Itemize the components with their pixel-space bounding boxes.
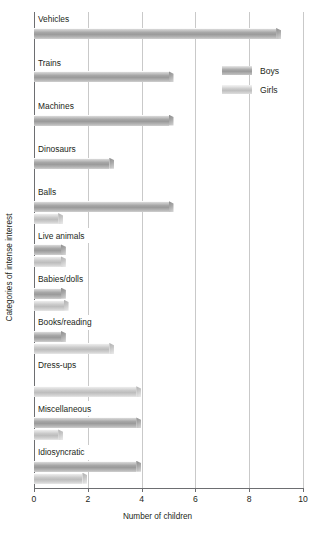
legend-item-girls: Girls <box>222 83 279 96</box>
x-tick <box>88 488 89 492</box>
x-tick <box>142 488 143 492</box>
y-axis-title-text: Categories of intense interest <box>5 214 14 322</box>
x-tick <box>195 488 196 492</box>
category-label: Live animals <box>35 228 89 243</box>
x-axis-title: Number of children <box>0 512 315 521</box>
x-axis-title-text: Number of children <box>123 512 192 521</box>
x-axis-line <box>34 488 304 489</box>
x-tick <box>303 488 304 492</box>
bar-boys <box>34 28 276 39</box>
x-tick-label: 4 <box>130 494 154 504</box>
category-group: Babies/dolls <box>34 272 303 315</box>
chart-legend: Boys Girls <box>222 64 279 102</box>
category-group: Dress-ups <box>34 358 303 401</box>
bar-girls <box>34 429 58 440</box>
bar-boys <box>34 417 136 428</box>
x-tick-label: 2 <box>76 494 100 504</box>
y-axis-title: Categories of intense interest <box>0 0 18 535</box>
bar-boys <box>34 115 169 126</box>
category-label: Babies/dolls <box>35 272 87 287</box>
category-group: Vehicles <box>34 12 303 55</box>
bar-chart-figure: Categories of intense interest VehiclesT… <box>0 0 315 535</box>
category-group: Live animals <box>34 228 303 271</box>
x-tick-label: 6 <box>183 494 207 504</box>
category-group: Miscellaneous <box>34 401 303 444</box>
category-label: Dress-ups <box>35 358 80 373</box>
x-tick <box>249 488 250 492</box>
x-tick-label: 10 <box>291 494 315 504</box>
bar-boys <box>34 331 61 342</box>
x-tick-label: 0 <box>22 494 46 504</box>
bar-girls <box>34 256 61 267</box>
bar-boys <box>34 201 169 212</box>
bar-boys <box>34 461 136 472</box>
category-label: Trains <box>35 55 65 70</box>
bar-boys <box>34 71 169 82</box>
bar-girls <box>34 386 136 397</box>
legend-label-girls: Girls <box>260 85 278 95</box>
legend-item-boys: Boys <box>222 64 279 77</box>
category-group: Balls <box>34 185 303 228</box>
x-tick-label: 8 <box>237 494 261 504</box>
category-label: Books/reading <box>35 315 96 330</box>
bar-girls <box>34 300 64 311</box>
gridline-10 <box>303 12 304 488</box>
bar-boys <box>34 158 109 169</box>
x-tick <box>34 488 35 492</box>
bar-boys <box>34 244 61 255</box>
category-group: Idiosyncratic <box>34 445 303 488</box>
category-label: Miscellaneous <box>35 401 95 416</box>
bar-girls <box>34 473 82 484</box>
bar-girls <box>34 213 58 224</box>
category-label: Balls <box>35 185 60 200</box>
bar-boys <box>34 288 61 299</box>
category-label: Vehicles <box>35 12 73 27</box>
legend-label-boys: Boys <box>260 66 279 76</box>
category-group: Books/reading <box>34 315 303 358</box>
category-group: Machines <box>34 99 303 142</box>
category-group: Dinosaurs <box>34 142 303 185</box>
bar-girls <box>34 343 109 354</box>
legend-swatch-girls-icon <box>222 85 252 94</box>
category-label: Machines <box>35 99 78 114</box>
category-label: Idiosyncratic <box>35 445 89 460</box>
category-label: Dinosaurs <box>35 142 80 157</box>
legend-swatch-boys-icon <box>222 66 252 75</box>
